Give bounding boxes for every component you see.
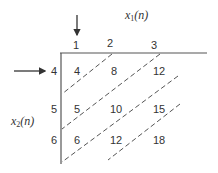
product-cell: 18	[153, 135, 165, 146]
diagonal-dashed-1	[62, 54, 112, 94]
x2-value: 5	[51, 104, 57, 115]
product-cell: 15	[153, 104, 165, 115]
x1-value: 3	[151, 40, 157, 51]
diagram-lines	[0, 0, 218, 173]
product-cell: 10	[110, 104, 122, 115]
x2-value: 6	[51, 135, 57, 146]
x2-value: 4	[51, 66, 57, 77]
product-cell: 5	[74, 104, 80, 115]
x2-axis-label: x2(n)	[11, 115, 34, 129]
product-cell: 6	[74, 135, 80, 146]
x1-value: 2	[107, 38, 113, 49]
product-cell: 12	[153, 66, 165, 77]
x1-axis-label: x1(n)	[125, 9, 148, 23]
convolution-table-diagram: x1(n) x2(n) 1 2 3 4 5 6 4 8 12 5 10 15 6…	[0, 0, 218, 173]
product-cell: 4	[74, 66, 80, 77]
product-cell: 12	[110, 135, 122, 146]
x1-value: 1	[73, 40, 79, 51]
product-cell: 8	[111, 66, 117, 77]
